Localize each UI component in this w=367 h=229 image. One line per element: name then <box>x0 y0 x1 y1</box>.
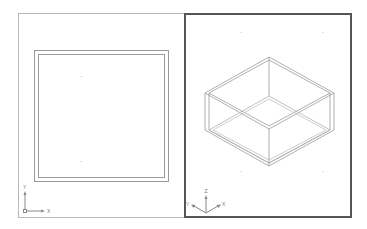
ucs-y-label-3d: Y <box>186 201 190 207</box>
ucs-z-label: Z <box>205 188 208 194</box>
inner-square-outline[interactable] <box>39 55 165 178</box>
outer-square-outline[interactable] <box>35 51 169 182</box>
box-outer-rim[interactable] <box>205 57 334 129</box>
ucs-icon-2d <box>24 191 46 213</box>
drawing-area: Y X <box>0 0 367 229</box>
ucs-y-label: Y <box>23 184 27 190</box>
grid-dots <box>80 32 324 172</box>
ucs-icon-3d <box>191 195 221 213</box>
top-view-square[interactable] <box>35 51 169 182</box>
isometric-box[interactable] <box>205 57 334 166</box>
ucs-x-label-3d: X <box>222 201 226 207</box>
box-inner-rim[interactable] <box>209 60 330 126</box>
geometry-layer: Y X <box>0 0 367 229</box>
box-bottom-edge-front[interactable] <box>205 130 334 166</box>
ucs-x-label: X <box>47 208 51 214</box>
